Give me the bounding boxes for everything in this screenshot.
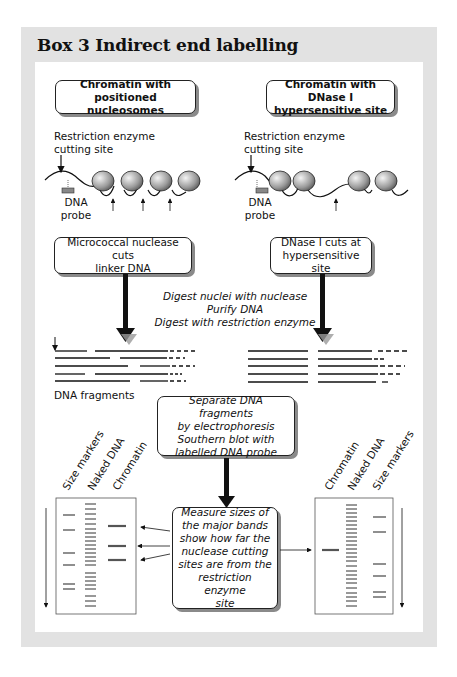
chromatin-left [45, 155, 200, 211]
dna-fragments-left [55, 337, 198, 381]
probe-icon [62, 188, 74, 193]
dna-fragments-right [248, 351, 408, 382]
nucleosome-icon [92, 171, 200, 191]
gel-left [46, 498, 170, 614]
gel-right [280, 498, 402, 614]
diagram-graphics [0, 0, 457, 677]
down-arrow-icon [116, 274, 334, 345]
down-arrow-icon [224, 458, 229, 498]
chromatin-right [235, 155, 408, 211]
